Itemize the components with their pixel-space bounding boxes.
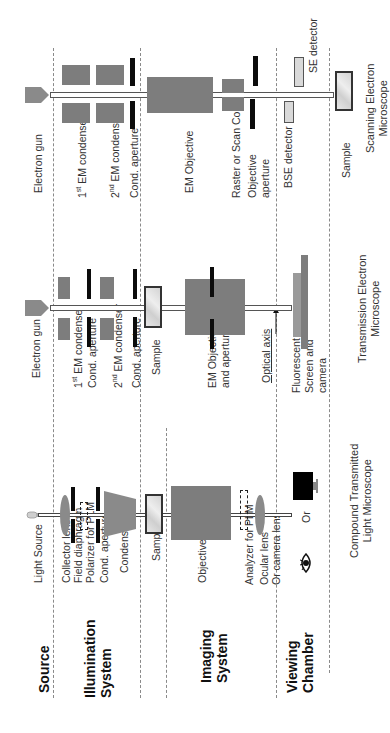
tem-condenser-1-right — [58, 277, 70, 299]
sem-label-cond-aperture: Cond. aperture — [128, 128, 141, 198]
sem-electron-gun-icon — [25, 86, 49, 104]
monitor-icon — [292, 471, 318, 501]
sem-label-scan-coils: Raster or Scan Coils — [230, 102, 243, 198]
divider-viewing — [329, 48, 330, 673]
tem-label-condenser-2: 2nd EM condenser — [108, 304, 125, 388]
eye-icon — [298, 553, 314, 573]
sem-sample — [335, 71, 353, 111]
tem-objective-aperture-left — [210, 319, 214, 349]
sem-scan-coil-left — [222, 97, 244, 111]
objective-lens — [171, 486, 231, 540]
optical-axis-arrow — [266, 308, 274, 334]
lm-label-light-source: Light Source — [32, 524, 45, 583]
tem-cond-aperture-2-right — [133, 269, 137, 299]
tem-label-sample: Sample — [150, 339, 163, 375]
tem-title-line2: Microscope — [369, 255, 382, 363]
sem-label-electron-gun: Electron gun — [32, 134, 45, 193]
sem-condenser-1-text: EM condenser — [76, 116, 88, 187]
condenser-lens — [104, 491, 136, 537]
divider-source — [53, 48, 54, 698]
sem-label-se-detector: SE detector — [307, 18, 320, 73]
lm-label-or: Or — [300, 511, 313, 523]
sem-label-sample: Sample — [340, 142, 353, 178]
field-diaphragm-right — [71, 487, 75, 511]
tem-label-screen: Fluorescent Screen and camera — [290, 338, 329, 393]
category-imaging-line1: Imaging — [198, 629, 214, 683]
sem-objective-aperture-line1: Objective — [246, 154, 259, 198]
lm-sample — [145, 494, 163, 534]
tem-condenser-2-sup: nd — [111, 374, 118, 382]
tem-objective-lens — [185, 279, 245, 335]
tem-condenser-2-num: 2 — [112, 382, 124, 388]
sem-condenser-2-sup: nd — [108, 184, 115, 192]
field-diaphragm-left — [71, 519, 75, 543]
tem-beam — [50, 305, 292, 311]
sem-condenser-1-num: 1 — [76, 192, 88, 198]
category-illumination-line1: Illumination — [82, 619, 98, 698]
sem-scan-coil-right — [222, 79, 244, 93]
sem-condenser-1-left — [62, 103, 90, 123]
analyzer — [240, 490, 248, 530]
tem-cond-aperture-1-right — [87, 269, 91, 299]
category-illumination: Illumination System — [82, 619, 114, 698]
tem-condenser-1-num: 1 — [72, 382, 84, 388]
sem-objective-aperture-line2: aperture — [259, 154, 272, 198]
tem-screen-line3: camera — [316, 338, 329, 393]
tem-condenser-1-sup: st — [71, 377, 78, 382]
lm-title-line1: Compound Transmitted — [348, 444, 361, 558]
polarizer — [80, 502, 88, 530]
tem-title: Transmission Electron Microscope — [356, 255, 382, 363]
tem-label-optical-axis: Optical axis — [260, 329, 273, 383]
lm-cond-aperture-right — [96, 487, 100, 511]
tem-cond-aperture-1-left — [87, 317, 91, 347]
tem-sample — [144, 286, 162, 328]
category-source: Source — [36, 646, 52, 693]
tem-cond-aperture-2-left — [133, 317, 137, 347]
tem-condenser-1-left — [58, 318, 70, 340]
ocular-lens — [255, 495, 265, 535]
category-viewing: Viewing Chamber — [284, 632, 316, 693]
lm-title-line2: Light Microscope — [361, 444, 374, 558]
sem-label-condenser-2: 2nd EM condenser — [105, 114, 122, 198]
sem-label-objective: EM Objective — [183, 131, 196, 193]
tem-label-condenser-1: 1st EM condenser — [68, 306, 85, 388]
sem-condenser-1-sup: st — [75, 187, 82, 192]
lm-title: Compound Transmitted Light Microscope — [348, 444, 374, 558]
tem-electron-gun-icon — [25, 299, 49, 317]
tem-condenser-2-left — [100, 318, 114, 340]
category-imaging-line2: System — [214, 629, 230, 683]
sem-cond-aperture-left — [130, 101, 135, 129]
bse-detector — [284, 101, 294, 123]
tem-title-line1: Transmission Electron — [356, 255, 369, 363]
sem-condenser-2-text: EM condenser — [109, 114, 121, 185]
sem-objective-lens — [147, 77, 213, 113]
tem-camera — [301, 255, 308, 349]
tem-fluorescent-screen — [293, 273, 301, 337]
sem-title-line1: Scanning Electron — [364, 64, 377, 153]
tem-objective-aperture-right — [210, 267, 214, 297]
sem-condenser-2-num: 2 — [109, 192, 121, 198]
category-imaging: Imaging System — [198, 629, 230, 683]
tem-condenser-1-text: EM condenser — [72, 306, 84, 377]
category-viewing-line1: Viewing — [284, 632, 300, 693]
sem-objective-aperture-right — [253, 56, 258, 86]
sem-title-line2: Microscope — [377, 64, 390, 153]
sem-condenser-1-right — [62, 65, 90, 85]
divider-imaging — [276, 48, 277, 698]
se-detector — [294, 57, 304, 87]
sem-label-condenser-1: 1st EM condenser — [72, 116, 89, 198]
tem-label-electron-gun: Electron gun — [30, 319, 43, 378]
tem-condenser-2-right — [100, 277, 114, 299]
collector-lens — [60, 495, 70, 535]
category-viewing-line2: Chamber — [300, 632, 316, 693]
lm-cond-aperture-left — [96, 519, 100, 543]
sem-condenser-2-right — [96, 65, 124, 85]
sem-condenser-2-left — [96, 103, 124, 123]
lm-label-camera-lens: Or camera lens — [270, 513, 283, 585]
sem-cond-aperture-right — [130, 58, 135, 86]
sem-title: Scanning Electron Microscope — [364, 64, 390, 153]
sem-label-bse-detector: BSE detector — [282, 126, 295, 188]
category-illumination-line2: System — [98, 619, 114, 698]
lm-optical-axis — [38, 513, 292, 517]
